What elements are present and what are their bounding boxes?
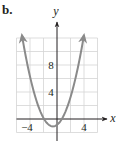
x-tick-label: 4	[81, 121, 87, 133]
axis-labels: −4448xy	[21, 4, 116, 133]
y-axis-label: y	[52, 4, 59, 18]
parabola-curve	[22, 35, 84, 126]
parabola-path	[22, 35, 84, 126]
x-axis-label: x	[109, 111, 116, 125]
x-tick-label: −4	[21, 121, 33, 133]
parabola-graph: −4448xy	[0, 0, 121, 142]
y-tick-label: 4	[48, 86, 54, 98]
y-tick-label: 8	[48, 59, 54, 71]
